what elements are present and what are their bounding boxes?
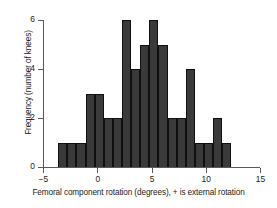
y-tick-label: 6	[30, 14, 35, 24]
x-tick: 5	[152, 168, 153, 173]
histogram-bar	[222, 143, 231, 168]
histogram-bar	[104, 118, 113, 167]
y-axis-title: Frequency (number of knees)	[24, 3, 33, 163]
histogram-figure: Frequency (number of knees) 0246 −505101…	[0, 0, 277, 208]
histogram-bar	[76, 143, 85, 168]
x-tick-label: 15	[248, 174, 273, 184]
histogram-bar	[213, 118, 222, 167]
histogram-bar	[195, 143, 204, 168]
histogram-bar	[186, 69, 195, 167]
x-tick-label: 10	[194, 174, 219, 184]
histogram-bar	[131, 69, 140, 167]
y-tick-label: 0	[30, 161, 35, 171]
x-tick-label: 5	[140, 174, 165, 184]
x-tick: 0	[97, 168, 98, 173]
histogram-bar	[58, 143, 67, 168]
x-tick: 15	[260, 168, 261, 173]
histogram-bar	[168, 118, 177, 167]
y-tick-label: 4	[30, 63, 35, 73]
x-tick-label: −5	[31, 174, 56, 184]
x-tick: −5	[43, 168, 44, 173]
histogram-bar	[158, 45, 167, 168]
histogram-bar	[95, 94, 104, 168]
histogram-bar	[204, 143, 213, 168]
x-axis-title: Femoral component rotation (degrees), + …	[0, 188, 277, 197]
x-tick: 10	[206, 168, 207, 173]
histogram-bar	[140, 45, 149, 168]
histogram-bar	[149, 20, 158, 167]
y-tick-label: 2	[30, 112, 35, 122]
histogram-bar	[122, 20, 131, 167]
x-tick-label: 0	[85, 174, 110, 184]
histogram-bar	[177, 118, 186, 167]
histogram-bar	[86, 94, 95, 168]
histogram-bar	[113, 118, 122, 167]
histogram-bar	[67, 143, 76, 168]
plot-area	[43, 20, 260, 167]
